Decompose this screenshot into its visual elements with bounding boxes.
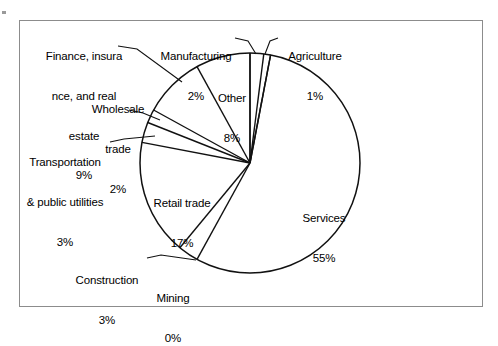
scan-artifact-top-left — [2, 11, 6, 14]
slice-label-agriculture-percent: 1% — [282, 90, 348, 103]
slice-label-construction-percent: 3% — [68, 314, 146, 327]
slice-label-services-percent: 55% — [295, 252, 353, 265]
slice-label-manufacturing-line1: Manufacturing — [155, 50, 237, 63]
slice-label-services: Services 55% — [295, 186, 353, 292]
slice-label-mining-line1: Mining — [146, 292, 200, 305]
slice-label-other-line1: Other — [207, 92, 257, 105]
slice-label-construction: Construction 3% — [68, 248, 146, 346]
slice-label-transportation-line2: & public utilities — [19, 196, 111, 209]
slice-label-mining-percent: 0% — [146, 332, 200, 345]
slice-label-retail-percent: 17% — [146, 237, 218, 250]
slice-label-wholesale-line1: Wholesale — [83, 103, 153, 116]
slice-label-services-line1: Services — [295, 212, 353, 225]
slice-label-mining: Mining 0% — [146, 266, 200, 346]
slice-label-construction-line1: Construction — [68, 274, 146, 287]
slice-label-transportation-line1: Transportation — [19, 156, 111, 169]
slice-label-finance-line1: Finance, insura — [30, 50, 138, 63]
slice-label-other: Other 8% — [207, 66, 257, 172]
slice-label-transportation-percent: 3% — [19, 236, 111, 249]
slice-label-retail: Retail trade 17% — [146, 171, 218, 277]
slice-label-agriculture-line1: Agriculture — [282, 50, 348, 63]
slice-label-retail-line1: Retail trade — [146, 197, 218, 210]
slice-label-other-percent: 8% — [207, 132, 257, 145]
slice-label-agriculture: Agriculture 1% — [282, 24, 348, 130]
